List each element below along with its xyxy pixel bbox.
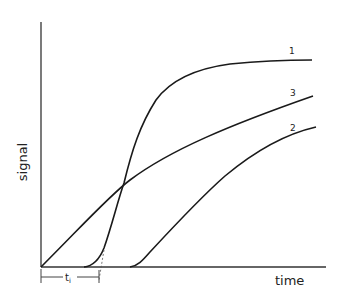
kinetics-diagram: ti 1 3 2 signal time [0,0,338,296]
curve-1-label: 1 [289,46,295,56]
curve-3-label: 3 [290,88,296,98]
ti-label: ti [65,272,71,285]
y-axis-label: signal [15,143,30,181]
curve-3 [41,96,313,267]
x-axis-label: time [275,273,304,288]
curve-1 [84,60,312,267]
curve-2-label: 2 [290,123,296,133]
curve-2 [130,127,316,267]
